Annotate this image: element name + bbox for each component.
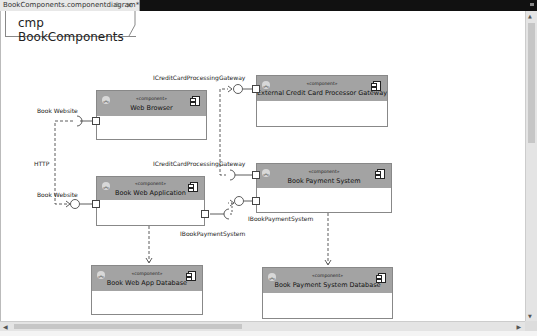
component-book-web-app-database[interactable]: ︽ «component» Book Web App Database	[91, 265, 203, 315]
port[interactable]	[92, 117, 100, 125]
component-icon	[377, 169, 385, 179]
component-icon	[378, 273, 386, 283]
component-book-payment-system-database[interactable]: ︽ «component» Book Payment System Databa…	[262, 267, 393, 319]
component-name: Book Payment System	[257, 177, 391, 185]
interface-label: ICreditCardProcessingGateway	[153, 74, 245, 81]
stereotype: «component»	[263, 273, 392, 278]
interface-label: IBookPaymentSystem	[248, 215, 313, 222]
horizontal-scrollbar[interactable]: ◀ ▶	[0, 321, 525, 331]
component-name: External Credit Card Processor Gateway	[257, 89, 387, 97]
port[interactable]	[201, 210, 209, 218]
component-header: ︽ «component» Book Payment System Databa…	[263, 268, 392, 293]
interface-label: IBookPaymentSystem	[180, 230, 245, 237]
component-web-browser[interactable]: ︽ «component» Web Browser	[96, 90, 207, 140]
port[interactable]	[252, 197, 260, 205]
tab-overflow-icon[interactable]	[530, 3, 534, 6]
component-header: ︽ «component» Book Payment System	[257, 164, 391, 188]
interface-label: ICreditCardProcessingGateway	[153, 160, 245, 167]
vertical-scrollbar[interactable]: ▲ ▼	[525, 11, 537, 321]
component-icon	[373, 81, 381, 91]
interface-label: Book Website	[37, 107, 78, 114]
port[interactable]	[252, 85, 260, 93]
component-book-payment-system[interactable]: ︽ «component» Book Payment System	[256, 163, 392, 213]
bottom-edge	[0, 331, 537, 336]
scroll-down-icon[interactable]: ▼	[528, 313, 532, 319]
port[interactable]	[92, 200, 100, 208]
scrollbar-corner	[525, 321, 537, 331]
scroll-left-icon[interactable]: ◀	[3, 322, 8, 331]
interface-label: Book Website	[37, 191, 78, 198]
connector-label-http: HTTP	[34, 160, 49, 167]
vertical-scroll-thumb[interactable]	[528, 23, 535, 143]
component-icon	[190, 182, 198, 192]
component-icon	[192, 96, 200, 106]
component-header: ︽ «component» Book Web Application	[97, 177, 204, 200]
component-external-credit-card-processor-gateway[interactable]: ︽ «component» External Credit Card Proce…	[256, 75, 388, 127]
component-header: ︽ «component» Book Web App Database	[92, 266, 202, 291]
scroll-right-icon[interactable]: ▶	[516, 322, 521, 331]
component-name: Book Payment System Database	[263, 281, 392, 289]
horizontal-scroll-thumb[interactable]	[14, 324, 242, 329]
port[interactable]	[252, 171, 260, 179]
component-icon	[188, 271, 196, 281]
component-header: ︽ «component» Web Browser	[97, 91, 206, 116]
scroll-up-icon[interactable]: ▲	[528, 13, 532, 19]
stereotype: «component»	[257, 81, 387, 86]
stereotype: «component»	[257, 169, 391, 174]
component-book-web-application[interactable]: ︽ «component» Book Web Application	[96, 176, 205, 226]
component-header: ︽ «component» External Credit Card Proce…	[257, 76, 387, 101]
